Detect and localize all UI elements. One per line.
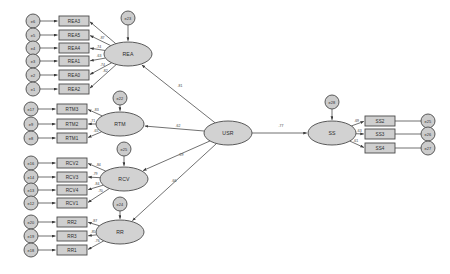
indicator-label: RR3 (67, 234, 77, 239)
indicator-label: RCV1 (66, 201, 79, 206)
error-term-label: e17 (28, 107, 35, 112)
loading-coef-REA2: .82 (103, 69, 108, 73)
path-coef-usr-ss: .77 (279, 124, 284, 128)
indicator-label: REA3 (68, 19, 81, 24)
path-usr-rea (142, 65, 215, 123)
indicator-label: REA4 (68, 46, 81, 51)
indicator-label: RTM3 (66, 107, 79, 112)
indicator-RTM3: RTM3 (57, 104, 87, 114)
loading-REA-to-REA4 (90, 48, 105, 50)
indicator-label: SS3 (376, 132, 385, 137)
indicator-label: SS4 (376, 146, 385, 151)
loading-coef-SS2: .69 (354, 119, 359, 123)
indicator-RCV4: RCV4 (57, 185, 87, 195)
indicator-SS3: SS3 (365, 129, 395, 139)
indicator-label: REA2 (68, 87, 81, 92)
indicator-label: RCV4 (66, 188, 79, 193)
indicator-RTM1: RTM1 (57, 133, 87, 143)
indicator-REA3: REA3 (59, 16, 89, 26)
loading-coef-REA4: .74 (96, 45, 101, 49)
latent-variable-label: RCV (118, 176, 130, 182)
loading-RR-to-RR3 (88, 235, 96, 236)
error-term-label: e3 (31, 59, 36, 64)
latent-variable-label: USR (222, 130, 233, 136)
indicator-RCV3: RCV3 (57, 172, 87, 182)
path-coef-usr-rtm: .62 (176, 124, 181, 128)
latent-variable-label: RR (116, 229, 124, 235)
indicator-label: SS2 (376, 119, 385, 124)
indicator-RR3: RR3 (57, 231, 87, 241)
latent-variable-RR: RR (96, 220, 144, 244)
disturbance-e22: e22 (113, 91, 127, 105)
loading-coef-RR2: .87 (92, 219, 97, 223)
indicator-RR1: RR1 (57, 245, 87, 255)
error-term-label: e4 (31, 46, 36, 51)
path-coef-usr-rcv: .59 (179, 153, 184, 157)
path-usr-rcv (143, 141, 210, 171)
disturbance-label: e25 (121, 147, 128, 152)
indicator-label: RR1 (67, 248, 77, 253)
loading-coef-RCV4: .84 (95, 182, 100, 186)
indicator-label: RCV2 (66, 161, 79, 166)
indicator-RCV1: RCV1 (57, 198, 87, 208)
latent-variable-USR: USR (204, 121, 252, 145)
indicator-REA5: REA5 (59, 30, 89, 40)
indicator-label: RR2 (67, 220, 77, 225)
loading-coef-REA5: .87 (100, 36, 105, 40)
error-term-e26: e26 (421, 127, 435, 141)
indicator-REA0: REA0 (59, 70, 89, 80)
indicator-REA2: REA2 (59, 84, 89, 94)
latent-variable-SS: SS (308, 121, 356, 145)
disturbance-e25d: e25 (117, 142, 131, 156)
loading-coef-RR1: .76 (95, 239, 100, 243)
diagram-svg: .87.74.63.74.82.83.71.65.84.79.84.70.87.… (0, 0, 450, 274)
disturbance-label: e28 (329, 100, 336, 105)
error-term-label: e5 (31, 33, 36, 38)
latent-variable-REA: REA (104, 42, 152, 66)
loading-coef-RTM2: .71 (90, 119, 95, 123)
indicator-RR2: RR2 (57, 217, 87, 227)
indicator-REA4: REA4 (59, 43, 89, 53)
loading-REA-to-REA1 (90, 58, 105, 61)
error-term-e1: e1 (26, 82, 40, 96)
loading-coef-REA0: .74 (100, 63, 105, 67)
error-term-label: e19 (28, 234, 35, 239)
error-term-label: e2 (31, 73, 36, 78)
error-term-label: e16 (28, 161, 35, 166)
latent-variable-label: REA (123, 51, 134, 57)
error-term-e4: e4 (26, 41, 40, 55)
error-term-e6: e6 (26, 14, 40, 28)
loading-coef-RTM1: .65 (94, 129, 99, 133)
error-term-label: e26 (425, 132, 432, 137)
error-term-label: e12 (28, 201, 35, 206)
error-term-label: e6 (31, 19, 36, 24)
sem-path-diagram-canvas: .87.74.63.74.82.83.71.65.84.79.84.70.87.… (0, 0, 450, 274)
disturbance-e23: e23 (121, 11, 135, 25)
indicator-label: REA1 (68, 59, 81, 64)
indicator-SS2: SS2 (365, 116, 395, 126)
loading-RCV-to-RCV3 (88, 177, 100, 178)
error-term-e12: e12 (24, 196, 38, 210)
error-term-e14: e14 (24, 170, 38, 184)
indicator-label: RTM1 (66, 136, 79, 141)
indicator-label: REA0 (68, 73, 81, 78)
disturbance-label: e23 (125, 16, 132, 21)
path-coef-usr-rr: .66 (172, 179, 177, 183)
loading-coef-RTM3: .83 (94, 108, 99, 112)
error-term-e27: e27 (421, 141, 435, 155)
disturbance-label: e24 (117, 202, 125, 207)
error-term-label: e20 (28, 220, 36, 225)
node-layer: e6e5e4e3e2e1e17e9e8e16e14e13e12e20e19e18… (24, 11, 435, 257)
loading-coef-SS4: .61 (353, 139, 358, 143)
indicator-label: RTM2 (66, 122, 79, 127)
loading-coef-RR3: .85 (91, 230, 96, 234)
latent-variable-label: SS (328, 130, 336, 136)
error-term-e16: e16 (24, 156, 38, 170)
indicator-SS4: SS4 (365, 143, 395, 153)
loading-coef-RCV3: .79 (93, 172, 98, 176)
loading-coef-RCV1: .70 (98, 189, 103, 193)
error-term-label: e1 (31, 87, 36, 92)
error-term-e13: e13 (24, 183, 38, 197)
error-term-label: e18 (28, 248, 35, 253)
error-term-e20: e20 (24, 215, 38, 229)
